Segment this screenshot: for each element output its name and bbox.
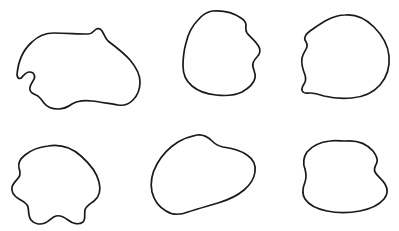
blob-drawing-svg bbox=[0, 0, 399, 231]
canvas-background bbox=[0, 0, 399, 231]
blob-canvas bbox=[0, 0, 399, 231]
